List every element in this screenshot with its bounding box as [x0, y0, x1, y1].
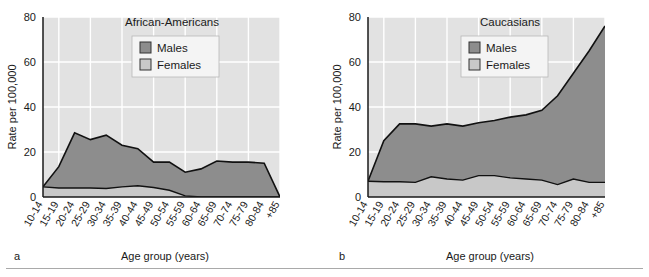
legend-label-females: Females: [157, 59, 201, 71]
legend-label-males: Males: [157, 42, 188, 54]
x-axis-title: Age group (years): [446, 250, 534, 262]
chart-svg-b: 020406080 10-1415-1920-2425-2930-3435-39…: [325, 0, 649, 277]
legend-swatch-females: [469, 59, 480, 70]
y-tick-labels: 020406080: [349, 11, 361, 203]
x-tick-labels: 10-1415-1920-2425-2930-3435-3940-4445-49…: [21, 199, 282, 228]
x-tick-labels: 10-1415-1920-2425-2930-3435-3940-4445-49…: [346, 199, 607, 228]
legend-swatch-males: [140, 42, 151, 53]
panel-title: Caucasians: [480, 16, 540, 28]
y-axis-title: Rate per 100,000: [6, 64, 18, 149]
y-tick-label: 20: [349, 146, 361, 158]
chart-svg-a: 020406080 10-1415-1920-2425-2930-3435-39…: [0, 0, 324, 277]
panel-title: African-Americans: [125, 16, 219, 28]
y-tick-label: 40: [24, 101, 36, 113]
y-axis-title: Rate per 100,000: [331, 64, 343, 149]
figure-container: 020406080 10-1415-1920-2425-2930-3435-39…: [0, 0, 649, 277]
bottom-divider: [6, 268, 643, 269]
x-tick-label: +85: [587, 199, 606, 221]
y-tick-label: 60: [24, 56, 36, 68]
legend-swatch-females: [140, 59, 151, 70]
legend-label-females: Females: [486, 59, 530, 71]
legend: Males Females: [461, 36, 548, 77]
legend-swatch-males: [469, 42, 480, 53]
legend: Males Females: [132, 36, 219, 77]
x-tick-label: +85: [262, 199, 281, 221]
panel-letter: b: [339, 250, 345, 262]
y-tick-labels: 020406080: [24, 11, 36, 203]
y-tick-label: 80: [24, 11, 36, 23]
y-tick-label: 40: [349, 101, 361, 113]
chart-panel-african-americans: 020406080 10-1415-1920-2425-2930-3435-39…: [0, 0, 324, 277]
panel-letter: a: [14, 250, 21, 262]
y-tick-label: 20: [24, 146, 36, 158]
y-tick-label: 60: [349, 56, 361, 68]
legend-label-males: Males: [486, 42, 517, 54]
y-tick-label: 80: [349, 11, 361, 23]
x-axis-title: Age group (years): [121, 250, 209, 262]
chart-panel-caucasians: 020406080 10-1415-1920-2425-2930-3435-39…: [325, 0, 649, 277]
